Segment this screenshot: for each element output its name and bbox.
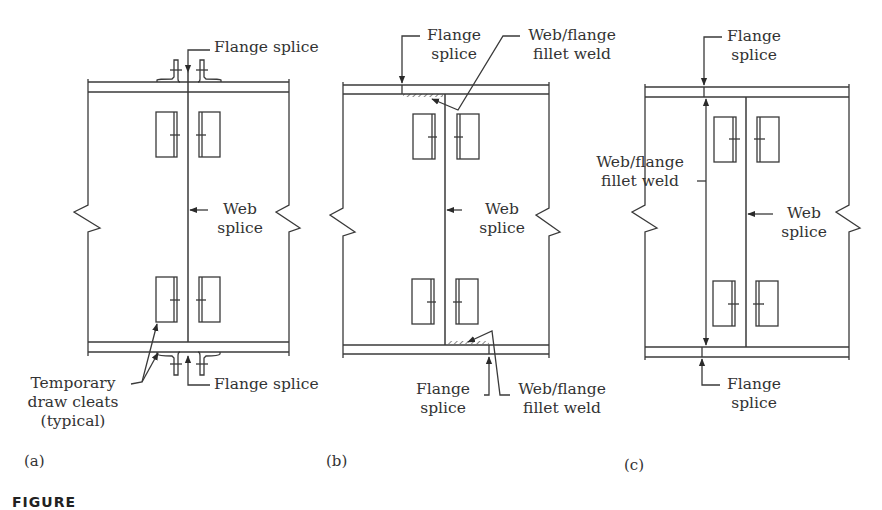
figure-caption: FIGURE bbox=[12, 494, 76, 510]
panel-b-web-splice-label: Web splice bbox=[472, 200, 532, 238]
panel-a-flange-splice-top-label: Flange splice bbox=[214, 38, 319, 57]
panel-c-flange-splice-bottom-label: Flange splice bbox=[724, 375, 784, 413]
panel-c-fillet-weld-label: Web/flange fillet weld bbox=[590, 153, 690, 191]
panel-b-tag: (b) bbox=[326, 452, 347, 470]
panel-b-fillet-weld-bottom-label: Web/flange fillet weld bbox=[512, 380, 612, 418]
panel-b-fillet-weld-top-label: Web/flange fillet weld bbox=[522, 26, 622, 64]
panel-b-flange-splice-top-label: Flange splice bbox=[424, 26, 484, 64]
panel-c-flange-splice-top-label: Flange splice bbox=[724, 27, 784, 65]
panel-b-flange-splice-bottom-label: Flange splice bbox=[408, 380, 478, 418]
panel-a-temporary-cleats-label: Temporary draw cleats (typical) bbox=[18, 374, 128, 431]
panel-a-web-splice-label: Web splice bbox=[212, 200, 268, 238]
panel-c-web-splice-label: Web splice bbox=[774, 204, 834, 242]
panel-a-flange-splice-bottom-label: Flange splice bbox=[214, 375, 319, 394]
panel-c-tag: (c) bbox=[624, 456, 644, 474]
panel-a-tag: (a) bbox=[24, 452, 45, 470]
